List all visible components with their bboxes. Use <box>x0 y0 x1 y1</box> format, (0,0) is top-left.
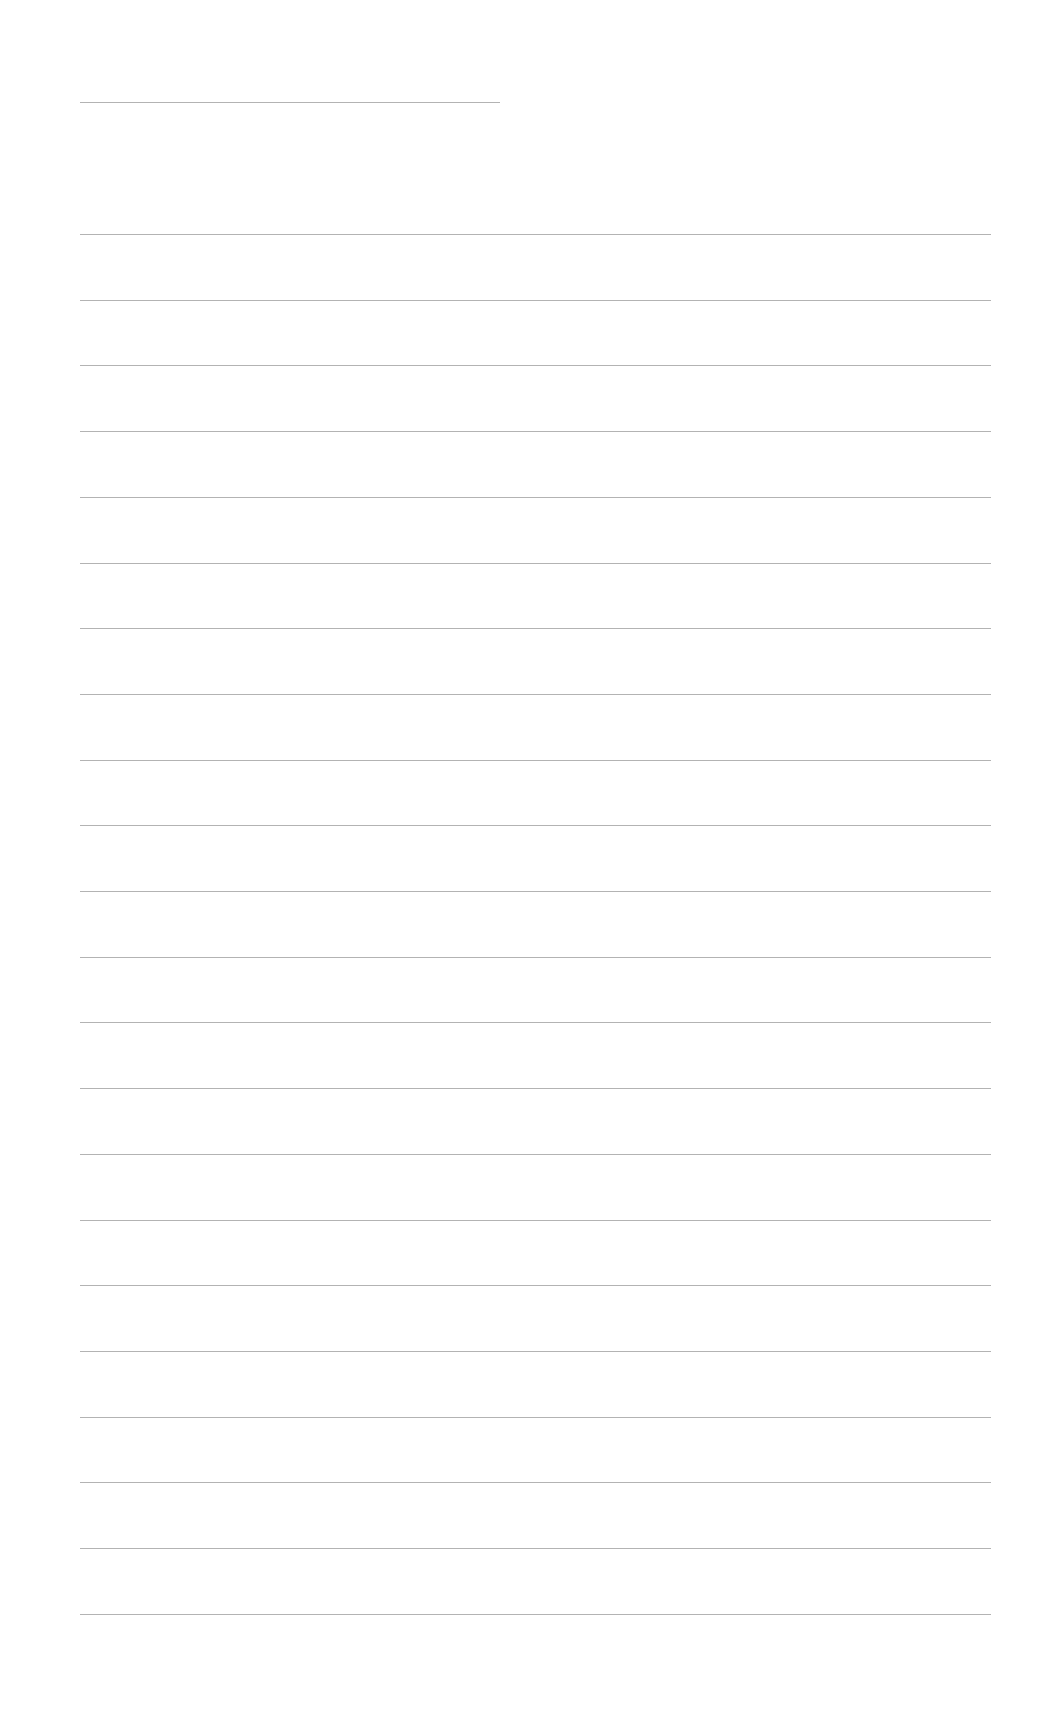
ruled-line <box>80 1285 991 1286</box>
ruled-line <box>80 1022 991 1023</box>
ruled-page <box>0 0 1051 1726</box>
ruled-line <box>80 1417 991 1418</box>
ruled-line <box>80 1548 991 1549</box>
ruled-line <box>80 1220 991 1221</box>
ruled-line <box>80 1614 991 1615</box>
ruled-line <box>80 234 991 235</box>
ruled-line <box>80 1088 991 1089</box>
ruled-line <box>80 300 991 301</box>
ruled-line <box>80 957 991 958</box>
ruled-line <box>80 628 991 629</box>
ruled-line <box>80 760 991 761</box>
ruled-line <box>80 1154 991 1155</box>
header-rule-line <box>80 102 500 103</box>
ruled-line <box>80 563 991 564</box>
ruled-line <box>80 365 991 366</box>
ruled-line <box>80 431 991 432</box>
ruled-line <box>80 825 991 826</box>
ruled-line <box>80 891 991 892</box>
ruled-line <box>80 1482 991 1483</box>
ruled-line <box>80 1351 991 1352</box>
ruled-line <box>80 497 991 498</box>
ruled-line <box>80 694 991 695</box>
